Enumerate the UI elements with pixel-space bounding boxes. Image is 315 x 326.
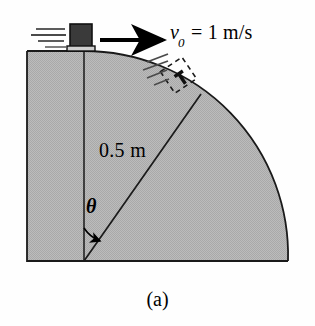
block-base bbox=[67, 46, 95, 51]
radius-label: 0.5 m bbox=[99, 140, 146, 160]
velocity-subscript: 0 bbox=[178, 35, 185, 50]
diagram-canvas bbox=[0, 0, 315, 326]
angle-label: θ bbox=[86, 196, 96, 216]
velocity-equation: = 1 m/s bbox=[191, 21, 253, 43]
ghost-speed-line-1 bbox=[147, 54, 168, 62]
speed-lines-icon bbox=[31, 29, 66, 47]
figure-caption: (a) bbox=[0, 288, 315, 311]
left-wall-fill bbox=[27, 51, 84, 261]
block-body bbox=[70, 24, 92, 49]
physics-figure: v0 = 1 m/s 0.5 m θ (a) bbox=[0, 0, 315, 326]
block-icon bbox=[67, 24, 95, 51]
velocity-label: v0 = 1 m/s bbox=[170, 22, 253, 46]
